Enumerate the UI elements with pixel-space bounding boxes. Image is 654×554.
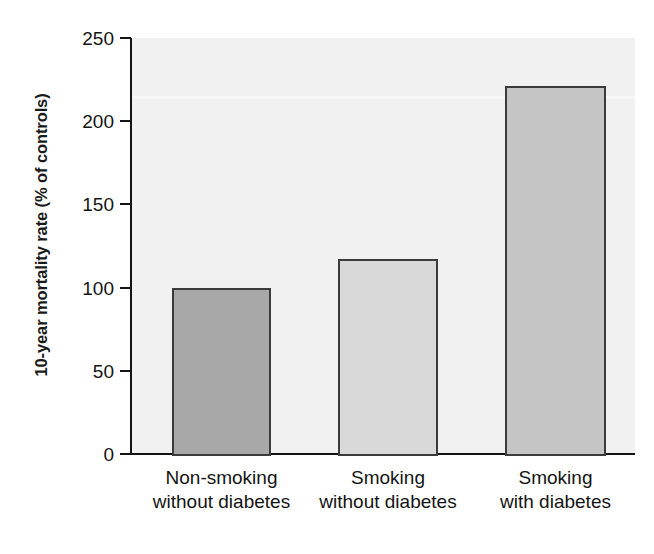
bar-1 [172,288,271,456]
y-axis-title: 10-year mortality rate (% of controls) [24,0,58,470]
y-axis-tick-label: 250 [62,29,114,48]
y-axis-tick-label: 150 [62,195,114,214]
y-axis-tick-mark [120,287,131,289]
y-axis-tick-mark [120,370,131,372]
x-axis-tick-label: Non-smokingwithout diabetes [127,466,317,515]
x-axis-tick-label-line1: Smoking [293,466,483,490]
y-axis-tick-labels: 050100150200250 [62,0,114,554]
y-axis-tick-mark [120,453,131,455]
y-axis-tick-mark [120,120,131,122]
y-axis-tick-label: 100 [62,278,114,297]
bar-2 [338,259,438,456]
bar-3 [505,86,606,456]
x-axis-tick-label-line1: Smoking [461,466,651,490]
x-axis-tick-label-line2: without diabetes [293,490,483,514]
bar-chart-figure: 10-year mortality rate (% of controls) 0… [0,0,654,554]
x-axis-tick-label-line2: with diabetes [461,490,651,514]
y-axis-tick-label: 200 [62,112,114,131]
x-axis-tick-label-line1: Non-smoking [127,466,317,490]
y-axis-tick-mark [120,37,131,39]
y-axis-tick-label: 0 [62,445,114,464]
x-axis-tick-label-line2: without diabetes [127,490,317,514]
x-axis-tick-label: Smokingwith diabetes [461,466,651,515]
y-axis-spine [130,38,132,455]
y-axis-tick-mark [120,203,131,205]
x-axis-tick-label: Smokingwithout diabetes [293,466,483,515]
y-axis-tick-label: 50 [62,361,114,380]
